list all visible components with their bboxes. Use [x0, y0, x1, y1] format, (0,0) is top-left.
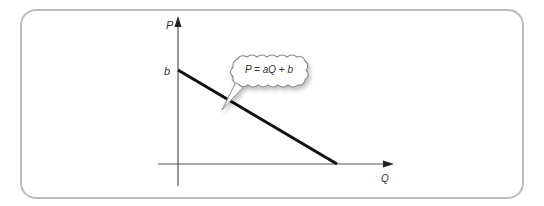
x-axis-label: Q: [381, 173, 389, 184]
demand-curve-diagram: P Q b P = aQ + b: [0, 0, 544, 206]
y-axis-arrow-icon: [175, 16, 182, 27]
y-axis: [175, 16, 182, 186]
x-axis: [158, 161, 394, 168]
equation-text: P = aQ + b: [245, 64, 293, 75]
y-axis-label: P: [166, 19, 174, 31]
x-axis-arrow-icon: [383, 161, 394, 168]
intercept-label: b: [164, 65, 170, 77]
